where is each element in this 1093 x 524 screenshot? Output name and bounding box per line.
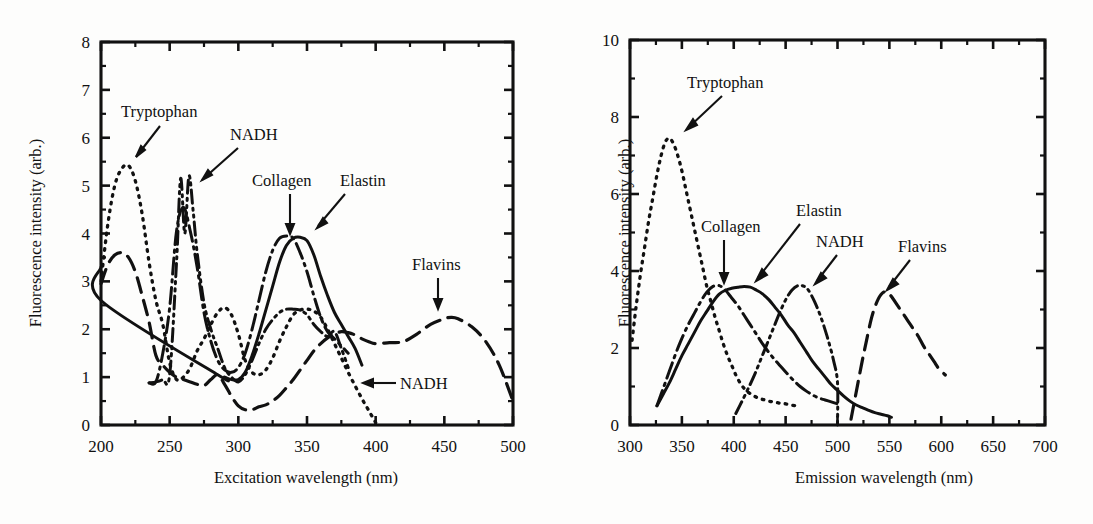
left-ytick-label: 8 [82, 33, 91, 52]
left-xtick-label: 450 [432, 437, 458, 456]
right-curve-tryptophan [632, 138, 796, 406]
panel-emission-spectra: 3003504004505005506006507000246810 Trypt… [546, 0, 1093, 524]
left-xtick-label: 400 [363, 437, 389, 456]
right-label-flavins: Flavins [898, 237, 947, 256]
right-yaxis-title: Fluorescence intensity (arb.) [615, 139, 634, 327]
right-xtick-label: 350 [669, 437, 695, 456]
left-annotation-flavins: Flavins [412, 255, 461, 309]
left-plot-svg: 200250300350400450500012345678 Tryptopha… [0, 0, 547, 524]
left-xtick-label: 200 [88, 437, 114, 456]
right-annotation-flavins: Flavins [887, 237, 947, 290]
right-xtick-label: 500 [825, 437, 851, 456]
left-xtick-label: 300 [226, 437, 252, 456]
right-xtick-label: 400 [721, 437, 747, 456]
right-label-tryptophan: Tryptophan [687, 73, 763, 92]
left-label-nadh-upper: NADH [230, 125, 278, 144]
right-annotation-tryptophan: Tryptophan [686, 73, 763, 130]
left-label-nadh-lower: NADH [400, 374, 448, 393]
right-annotation-nadh: NADH [815, 232, 864, 284]
right-curve-elastin [657, 286, 891, 417]
left-xtick-label: 350 [294, 437, 320, 456]
right-xtick-label: 450 [773, 437, 799, 456]
right-curve-flavins [851, 292, 945, 419]
left-ytick-label: 3 [82, 272, 91, 291]
left-xtick-label: 250 [157, 437, 183, 456]
right-xtick-label: 600 [929, 437, 955, 456]
right-curves [632, 138, 945, 425]
left-ytick-label: 7 [82, 81, 91, 100]
arrow-head-nadh-lower [363, 379, 373, 387]
arrow-head-flavins [434, 299, 442, 309]
left-annotation-tryptophan: Tryptophan [121, 102, 197, 157]
right-xtick-label: 700 [1032, 437, 1058, 456]
left-tick-labels: 200250300350400450500012345678 [82, 33, 526, 456]
left-annotation-nadh-tail: NADH [363, 374, 448, 393]
right-xtick-label: 650 [980, 437, 1006, 456]
left-ytick-label: 4 [82, 225, 91, 244]
right-annotation-collagen: Collagen [701, 217, 761, 283]
arrow-head-r-elastin [756, 269, 767, 281]
arrow-head-tryptophan [136, 146, 145, 157]
left-ytick-label: 5 [82, 177, 91, 196]
left-label-elastin: Elastin [340, 171, 386, 190]
right-ytick-label: 0 [611, 416, 620, 435]
left-yaxis-title: Fluorescence intensity (arb.) [26, 139, 45, 327]
panel-excitation-spectra: 200250300350400450500012345678 Tryptopha… [0, 0, 547, 524]
arrow-line-r-elastin [758, 224, 800, 278]
arrow-head-r-collagen [720, 273, 728, 283]
right-xtick-label: 300 [617, 437, 643, 456]
left-ytick-label: 2 [82, 320, 91, 339]
right-xaxis-title: Emission wavelength (nm) [795, 468, 973, 487]
right-ytick-label: 8 [611, 108, 620, 127]
arrow-head-r-flavins [887, 279, 898, 290]
right-label-collagen: Collagen [701, 217, 761, 236]
right-ytick-label: 2 [611, 339, 620, 358]
arrow-head-collagen [286, 224, 294, 234]
left-curves [92, 165, 513, 423]
right-label-elastin: Elastin [796, 201, 842, 220]
figure-canvas: 200250300350400450500012345678 Tryptopha… [0, 0, 1093, 524]
left-label-flavins: Flavins [412, 255, 461, 274]
left-ytick-label: 1 [82, 368, 91, 387]
left-ytick-label: 6 [82, 129, 91, 148]
right-label-nadh: NADH [816, 232, 864, 251]
left-ytick-label: 0 [82, 416, 91, 435]
left-annotation-elastin: Elastin [317, 171, 386, 228]
left-xtick-label: 500 [500, 437, 526, 456]
left-curve-tryptophan [101, 165, 376, 423]
right-ytick-label: 10 [602, 31, 619, 50]
arrow-head-elastin [317, 218, 327, 228]
arrow-head-r-nadh [815, 273, 826, 284]
left-xaxis-title: Excitation wavelength (nm) [214, 468, 398, 487]
left-annotation-collagen: Collagen [252, 171, 312, 234]
right-plot-svg: 3003504004505005506006507000246810 Trypt… [546, 0, 1093, 524]
right-xtick-label: 550 [877, 437, 903, 456]
left-label-collagen: Collagen [252, 171, 312, 190]
left-label-tryptophan: Tryptophan [121, 102, 197, 121]
